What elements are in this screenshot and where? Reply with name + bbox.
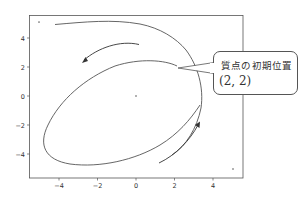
x-tick-label: −2 <box>93 182 103 190</box>
direction-arrow-lower <box>159 122 200 164</box>
callout-pointer <box>178 63 214 74</box>
trajectory-line <box>44 21 202 165</box>
x-tick-label: 4 <box>211 182 215 190</box>
y-tick-label: 0 <box>21 93 25 101</box>
point-marker <box>232 168 234 170</box>
callout-gap-mask <box>210 60 216 76</box>
x-tick-label: 2 <box>172 182 176 190</box>
x-axis: −4 −2 0 2 4 <box>54 178 215 190</box>
direction-arrow-upper <box>82 43 139 63</box>
callout-title: 質点の初期位置 <box>221 58 292 72</box>
y-tick-label: 4 <box>21 35 25 43</box>
point-marker <box>38 21 40 23</box>
x-tick-label: −4 <box>54 182 64 190</box>
point-marker <box>135 95 137 97</box>
y-tick-label: −2 <box>15 122 25 130</box>
y-tick-label: −4 <box>15 151 25 159</box>
y-axis: 4 2 0 −2 −4 <box>15 35 29 159</box>
callout-coordinates: (2, 2) <box>219 74 251 88</box>
y-tick-label: 2 <box>21 64 25 72</box>
trajectory-chart: −4 −2 0 2 4 4 2 0 −2 −4 <box>0 0 307 206</box>
x-tick-label: 0 <box>134 182 138 190</box>
initial-position-callout: 質点の初期位置 (2, 2) <box>213 51 298 95</box>
